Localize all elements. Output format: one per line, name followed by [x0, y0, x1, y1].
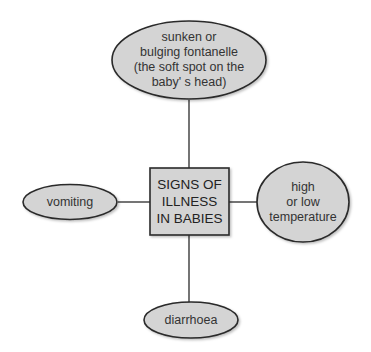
node-left-label: vomiting [23, 185, 117, 219]
node-right-label: high or low temperature [257, 163, 349, 241]
node-bottom-label: diarrhoea [144, 302, 238, 338]
node-top-label: sunken or bulging fontanelle (the soft s… [112, 22, 266, 98]
center-box-label: SIGNS OF ILLNESS IN BABIES [150, 168, 229, 235]
